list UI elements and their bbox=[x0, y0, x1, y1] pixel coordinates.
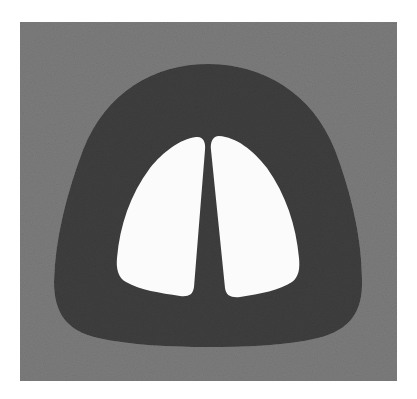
phantom-graphic bbox=[0, 0, 417, 399]
phantom-image bbox=[0, 0, 417, 399]
